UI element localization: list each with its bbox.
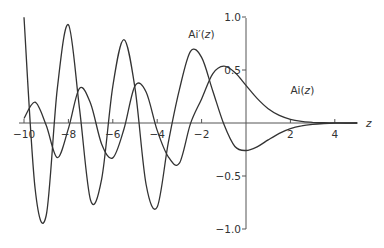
ai-curve [24, 66, 357, 165]
ai-prime-label: Ai′(z) [188, 28, 214, 40]
y-tick-label: 1.0 [224, 11, 241, 23]
x-tick-label: 4 [331, 128, 338, 140]
y-tick-label: −0.5 [216, 170, 242, 182]
x-tick-label: −2 [194, 128, 209, 140]
x-axis-label: z [365, 117, 372, 129]
ai-label: Ai(z) [290, 84, 314, 96]
ai-prime-curve [24, 17, 357, 223]
airy-function-chart: −10−8−6−4−224 z 1.00.5−0.5−1.0 Ai(z)Ai′(… [0, 0, 384, 248]
y-tick-label: −1.0 [216, 223, 242, 235]
curves [24, 17, 357, 223]
x-axis: −10−8−6−4−224 z [13, 117, 372, 140]
